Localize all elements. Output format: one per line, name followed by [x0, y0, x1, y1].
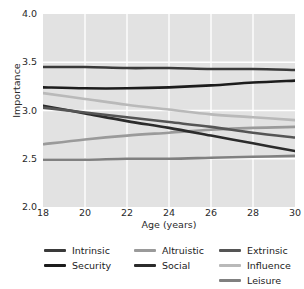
legend-item-leisure[interactable]: Leisure [219, 273, 291, 288]
legend-item-altruistic[interactable]: Altruistic [134, 243, 204, 258]
plot-area [43, 14, 295, 207]
x-tick-28: 28 [241, 208, 265, 218]
legend-swatch-intrinsic [44, 249, 66, 252]
x-tick-18: 18 [31, 208, 55, 218]
legend-swatch-influence [219, 264, 241, 267]
legend-column-1: IntrinsicSecurity [44, 243, 111, 273]
legend-swatch-extrinsic [219, 249, 241, 252]
x-tick-22: 22 [115, 208, 139, 218]
y-tick-4.0: 4.0 [5, 9, 37, 19]
plot-svg [43, 14, 295, 207]
y-tick-3.5: 3.5 [5, 57, 37, 67]
legend-item-security[interactable]: Security [44, 258, 111, 273]
legend-item-influence[interactable]: Influence [219, 258, 291, 273]
legend-label-leisure: Leisure [247, 275, 281, 286]
legend-label-social: Social [162, 260, 190, 271]
legend-item-intrinsic[interactable]: Intrinsic [44, 243, 111, 258]
x-tick-30: 30 [283, 208, 304, 218]
legend-swatch-security [44, 264, 66, 267]
legend-column-2: AltruisticSocial [134, 243, 204, 273]
line-chart-figure: Importance Age (years) 2.02.53.03.54.0 1… [0, 0, 304, 289]
x-axis-label: Age (years) [43, 219, 295, 230]
y-tick-3.0: 3.0 [5, 106, 37, 116]
legend-label-intrinsic: Intrinsic [72, 245, 110, 256]
legend-swatch-social [134, 264, 156, 267]
legend-swatch-leisure [219, 279, 241, 282]
legend-label-influence: Influence [247, 260, 291, 271]
legend-item-social[interactable]: Social [134, 258, 204, 273]
x-tick-26: 26 [199, 208, 223, 218]
legend-column-3: ExtrinsicInfluenceLeisure [219, 243, 291, 288]
legend-swatch-altruistic [134, 249, 156, 252]
chart-legend: IntrinsicSecurity AltruisticSocial Extri… [0, 243, 304, 289]
legend-label-security: Security [72, 260, 111, 271]
x-tick-24: 24 [157, 208, 181, 218]
legend-label-extrinsic: Extrinsic [247, 245, 288, 256]
y-tick-2.5: 2.5 [5, 154, 37, 164]
legend-label-altruistic: Altruistic [162, 245, 204, 256]
legend-item-extrinsic[interactable]: Extrinsic [219, 243, 291, 258]
x-tick-20: 20 [73, 208, 97, 218]
